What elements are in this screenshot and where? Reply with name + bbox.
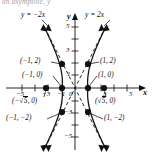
arrow-asymptote-up-left <box>45 24 51 31</box>
arrow-right-down <box>103 145 109 152</box>
sqrt5-suffix: , 0) <box>106 97 116 105</box>
point-1-neg2 <box>85 109 91 115</box>
y-axis-label: y <box>67 13 71 21</box>
equation-leader-lines <box>42 20 110 26</box>
x-axis-label: x <box>143 89 147 97</box>
leader-eq-left <box>42 20 48 26</box>
arrow-asymptote-up-right <box>98 24 104 31</box>
point-1-2 <box>85 61 91 67</box>
axes-group <box>6 16 142 150</box>
x-tick-label-0: 0 <box>69 91 73 98</box>
point-label-neg1-0: (−1, 0) <box>22 72 42 79</box>
leader-1-0 <box>90 76 97 85</box>
y-tick-label-3: 3 <box>66 47 70 54</box>
axis-arrowheads <box>72 13 146 91</box>
point-neg1-2 <box>59 61 65 67</box>
point-label-neg1-neg2: (−1, −2) <box>6 115 31 122</box>
arrow-left-up <box>40 24 46 31</box>
point-label-sqrt5-0: (√5, 0) <box>95 98 115 105</box>
arrow-asymptote-down-right <box>98 145 104 152</box>
y-tick-label-neg5: −5 <box>64 133 72 140</box>
x-tick-label-neg1: −1 <box>57 91 65 98</box>
x-tick-label-5: 5 <box>129 91 133 98</box>
y-tick-label-neg3: −3 <box>64 109 72 116</box>
neg-sqrt5-suffix: , 0) <box>28 97 38 105</box>
point-label-1-neg2: (1, −2) <box>104 115 124 122</box>
arrow-asymptote-down-left <box>45 145 51 152</box>
leader-neg1-2 <box>51 62 59 64</box>
y-axis-arrow <box>72 13 78 20</box>
leader-1-2 <box>91 62 99 64</box>
asymptote-left-equation-label: y = −2x <box>21 11 45 18</box>
leader-neg1-0 <box>53 76 60 85</box>
arrow-right-up <box>103 24 109 31</box>
point-label-1-0: (1, 0) <box>98 72 114 79</box>
y-tick-label-1: 1 <box>67 71 71 78</box>
asymptote-right-equation-label: y = 2x <box>85 11 104 18</box>
point-label-neg-sqrt5-0: (−√5, 0) <box>12 98 37 105</box>
point-label-neg1-2: (−1, 2) <box>20 58 40 65</box>
hyperbola-graph-figure: an asymptote, y <box>0 0 153 156</box>
sqrt-glyph-right: √ <box>97 97 101 105</box>
point-1-0 <box>85 85 91 91</box>
x-tick-label-neg3: −3 <box>42 91 50 98</box>
point-label-1-2: (1, 2) <box>100 58 116 65</box>
arrow-left-down <box>40 145 46 152</box>
y-tick-label-5: 5 <box>66 23 70 30</box>
